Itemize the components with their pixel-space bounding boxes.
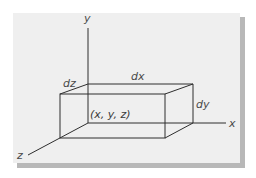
- z-axis-label: z: [16, 149, 23, 162]
- box-depth-edge-bottom-right: [165, 123, 193, 138]
- corner-coordinate-label: (x, y, z): [90, 108, 131, 121]
- dx-label: dx: [131, 70, 145, 83]
- box-depth-edge-top-right: [165, 84, 193, 94]
- volume-element-diagram: y x z dx dy dz (x, y, z): [0, 0, 256, 178]
- dy-label: dy: [196, 98, 210, 111]
- x-axis-label: x: [228, 117, 236, 130]
- y-axis-label: y: [83, 12, 91, 25]
- dz-label: dz: [63, 77, 76, 90]
- z-axis: [28, 123, 88, 155]
